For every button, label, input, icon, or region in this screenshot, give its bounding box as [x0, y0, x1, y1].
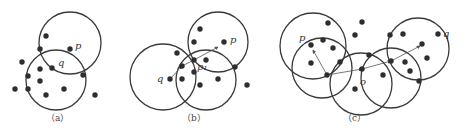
- panel-b-density-reachable: pqp₁: [130, 12, 250, 110]
- caption-c: （c）: [343, 111, 366, 124]
- eps-neighborhood-circle: [26, 50, 86, 110]
- data-point: [191, 39, 196, 44]
- data-point: [352, 86, 357, 91]
- data-point: [388, 58, 393, 63]
- data-point: [419, 41, 424, 46]
- dbscan-density-reachability-figure: pq pqp₁ pqo: [0, 0, 467, 135]
- data-point: [25, 86, 30, 91]
- point-label: p: [75, 40, 82, 51]
- data-point: [43, 92, 48, 97]
- point-label: p: [230, 34, 237, 45]
- data-point: [359, 19, 364, 24]
- data-point: [325, 20, 330, 25]
- data-point: [37, 66, 42, 71]
- data-point: [12, 86, 17, 91]
- data-point: [25, 73, 30, 78]
- data-point: [424, 55, 429, 60]
- reachability-arrow: [362, 61, 391, 69]
- data-point: [49, 65, 54, 70]
- data-point: [179, 63, 184, 68]
- data-point: [215, 76, 220, 81]
- data-point: [37, 78, 42, 83]
- data-point: [244, 82, 249, 87]
- data-point: [80, 72, 85, 77]
- point-label: q: [443, 28, 449, 39]
- data-point: [380, 72, 385, 77]
- reachability-arrow: [313, 50, 327, 75]
- caption-a: （a）: [46, 111, 69, 124]
- data-point: [191, 57, 196, 62]
- data-point: [366, 52, 371, 57]
- data-point: [179, 76, 184, 81]
- data-point: [402, 59, 407, 64]
- point-label: o: [360, 76, 366, 87]
- data-point: [407, 68, 412, 73]
- point-label: p₁: [197, 61, 207, 72]
- data-point: [191, 69, 196, 74]
- data-point: [359, 66, 364, 71]
- data-point: [232, 64, 237, 69]
- caption-b: （b）: [182, 111, 206, 124]
- data-point: [435, 31, 440, 36]
- point-label: q: [58, 57, 64, 68]
- data-point: [324, 72, 329, 77]
- data-point: [167, 76, 172, 81]
- data-point: [320, 37, 325, 42]
- data-point: [37, 46, 42, 51]
- eps-neighborhood-circle: [292, 38, 352, 98]
- data-point: [330, 45, 335, 50]
- data-point: [387, 32, 392, 37]
- data-point: [174, 50, 179, 55]
- data-point: [337, 59, 342, 64]
- data-point: [197, 82, 202, 87]
- data-point: [19, 59, 24, 64]
- data-point: [308, 42, 313, 47]
- data-point: [43, 33, 48, 38]
- point-label: p: [299, 32, 306, 43]
- data-point: [221, 39, 226, 44]
- panel-c-density-connected: pqo: [280, 13, 449, 115]
- data-point: [61, 86, 66, 91]
- data-point: [92, 92, 97, 97]
- data-point: [308, 60, 313, 65]
- eps-neighborhood-circle: [39, 12, 101, 74]
- panel-a-direct-density-reachable: pq: [12, 12, 101, 110]
- data-point: [197, 26, 202, 31]
- data-point: [67, 46, 72, 51]
- data-point: [352, 32, 357, 37]
- data-point: [416, 78, 421, 83]
- point-label: q: [157, 73, 163, 84]
- data-point: [400, 31, 405, 36]
